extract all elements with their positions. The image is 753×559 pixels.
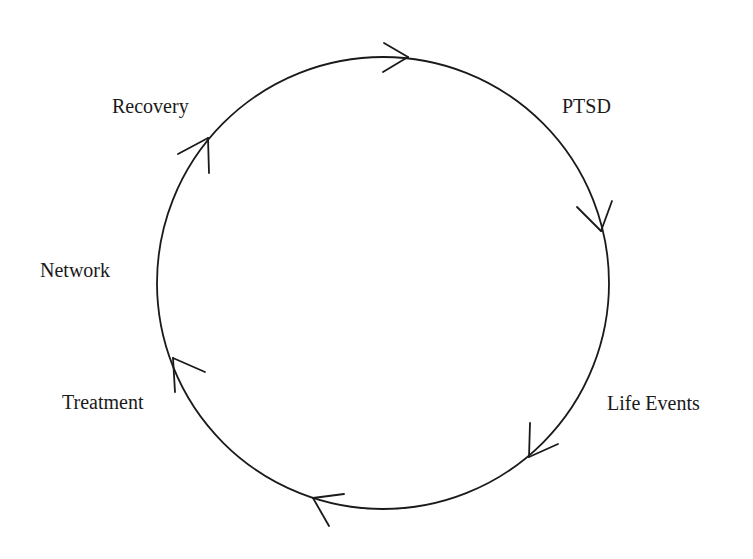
node-label-treatment: Treatment — [62, 392, 143, 412]
node-label-ptsd: PTSD — [562, 96, 611, 116]
node-label-network: Network — [40, 260, 110, 280]
node-label-recovery: Recovery — [112, 96, 189, 116]
node-label-life-events: Life Events — [607, 393, 700, 413]
cycle-diagram — [0, 0, 753, 559]
arrow-left-lower-icon — [173, 358, 205, 392]
cycle-circle — [157, 57, 609, 509]
